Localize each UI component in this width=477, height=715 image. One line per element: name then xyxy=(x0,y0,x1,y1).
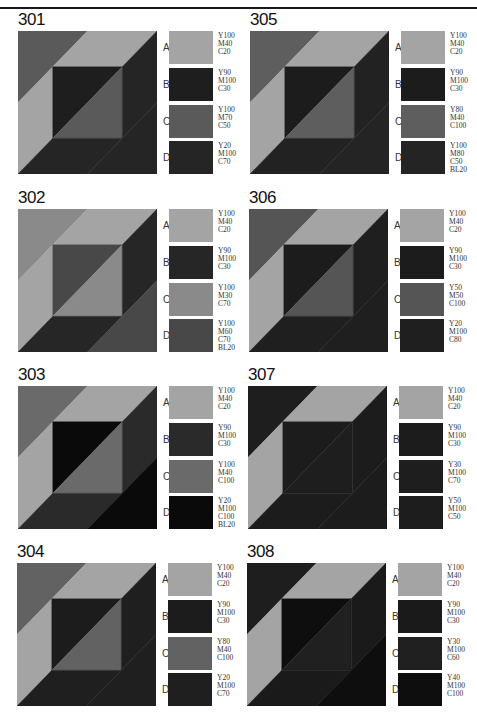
color-square-illustration xyxy=(247,563,386,706)
panel-number: 305 xyxy=(250,11,277,28)
color-swatch-d xyxy=(400,319,444,352)
cmyk-code: Y100 M40 C20 xyxy=(218,210,235,234)
cmyk-code: Y100 M70 C50 xyxy=(218,106,235,130)
panel-number: 301 xyxy=(18,11,45,28)
cmyk-code: Y100 M40 C100 xyxy=(218,461,235,485)
panel-304: 304AY100 M40 C20BY90 M100 C30CY80 M40 C1… xyxy=(17,543,249,715)
cmyk-code: Y80 M40 C100 xyxy=(217,638,233,662)
top-rule xyxy=(0,7,477,9)
cmyk-code: Y30 M100 C60 xyxy=(447,638,465,662)
color-square-illustration xyxy=(249,209,388,352)
color-swatch-d xyxy=(399,496,443,529)
cmyk-code: Y100 M40 C20 xyxy=(218,32,235,56)
cmyk-code: Y20 M100 C70 xyxy=(217,674,235,698)
color-swatch-a xyxy=(169,31,213,64)
panel-306: 306AY100 M40 C20BY90 M100 C30CY50 M50 C1… xyxy=(249,189,477,367)
color-swatch-d xyxy=(168,673,212,706)
color-swatch-b xyxy=(168,600,212,633)
color-square-illustration xyxy=(18,209,157,352)
panel-302: 302AY100 M40 C20BY90 M100 C30CY100 M30 C… xyxy=(18,189,250,367)
color-swatch-d xyxy=(401,141,445,174)
panel-303: 303AY100 M40 C20BY90 M100 C30CY100 M40 C… xyxy=(18,366,250,544)
color-swatch-a xyxy=(400,209,444,242)
color-swatch-c xyxy=(401,105,445,138)
color-swatch-d xyxy=(169,496,213,529)
color-swatch-b xyxy=(399,423,443,456)
color-swatch-b xyxy=(401,68,445,101)
color-swatch-b xyxy=(169,423,213,456)
color-swatch-d xyxy=(398,673,442,706)
color-swatch-d xyxy=(169,319,213,352)
color-swatch-c xyxy=(400,283,444,316)
panel-307: 307AY100 M40 C20BY90 M100 C30CY30 M100 C… xyxy=(248,366,477,544)
color-square-illustration xyxy=(17,563,156,706)
color-swatch-b xyxy=(169,68,213,101)
color-square-illustration xyxy=(18,31,157,174)
cmyk-code: Y50 M50 C100 xyxy=(449,284,465,308)
color-square-illustration xyxy=(248,386,387,529)
cmyk-code: Y100 M40 C20 xyxy=(447,564,464,588)
color-swatch-c xyxy=(169,105,213,138)
cmyk-code: Y90 M100 C30 xyxy=(217,601,235,625)
cmyk-code: Y100 M80 C50 BL20 xyxy=(450,142,467,174)
color-swatch-d xyxy=(169,141,213,174)
color-swatch-c xyxy=(169,283,213,316)
cmyk-code: Y90 M100 C30 xyxy=(448,424,466,448)
color-swatch-c xyxy=(168,637,212,670)
cmyk-code: Y50 M100 C50 xyxy=(448,497,466,521)
color-swatch-a xyxy=(169,386,213,419)
cmyk-code: Y90 M100 C30 xyxy=(449,247,467,271)
cmyk-code: Y100 M40 C20 xyxy=(218,387,235,411)
cmyk-code: Y30 M100 C70 xyxy=(448,461,466,485)
color-square-illustration xyxy=(250,31,389,174)
color-swatch-a xyxy=(169,209,213,242)
cmyk-code: Y90 M100 C30 xyxy=(218,69,236,93)
cmyk-code: Y90 M100 C30 xyxy=(447,601,465,625)
panel-number: 303 xyxy=(18,366,45,383)
panel-number: 308 xyxy=(247,543,274,560)
panel-301: 301AY100 M40 C20BY90 M100 C30CY100 M70 C… xyxy=(18,11,250,189)
color-swatch-a xyxy=(399,386,443,419)
color-swatch-b xyxy=(169,246,213,279)
cmyk-code: Y100 M40 C20 xyxy=(449,210,466,234)
color-swatch-a xyxy=(401,31,445,64)
cmyk-code: Y20 M100 C100 BL20 xyxy=(218,497,236,529)
cmyk-code: Y100 M40 C20 xyxy=(450,32,467,56)
cmyk-code: Y20 M100 C70 xyxy=(218,142,236,166)
color-swatch-a xyxy=(398,563,442,596)
cmyk-code: Y100 M40 C20 xyxy=(448,387,465,411)
color-square-illustration xyxy=(18,386,157,529)
panel-number: 304 xyxy=(17,543,44,560)
color-swatch-c xyxy=(399,460,443,493)
color-swatch-c xyxy=(169,460,213,493)
color-swatch-a xyxy=(168,563,212,596)
cmyk-code: Y100 M60 C70 BL20 xyxy=(218,320,235,352)
cmyk-code: Y80 M40 C100 xyxy=(450,106,466,130)
cmyk-code: Y40 M100 C100 xyxy=(447,674,465,698)
color-swatch-b xyxy=(400,246,444,279)
panel-308: 308AY100 M40 C20BY90 M100 C30CY30 M100 C… xyxy=(247,543,477,715)
panel-number: 306 xyxy=(249,189,276,206)
panel-number: 302 xyxy=(18,189,45,206)
cmyk-code: Y20 M100 C80 xyxy=(449,320,467,344)
color-swatch-b xyxy=(398,600,442,633)
panel-305: 305AY100 M40 C20BY90 M100 C30CY80 M40 C1… xyxy=(250,11,477,189)
cmyk-code: Y90 M100 C30 xyxy=(218,424,236,448)
cmyk-code: Y90 M100 C30 xyxy=(450,69,468,93)
cmyk-code: Y100 M30 C70 xyxy=(218,284,235,308)
cmyk-code: Y90 M100 C30 xyxy=(218,247,236,271)
color-swatch-c xyxy=(398,637,442,670)
cmyk-code: Y100 M40 C20 xyxy=(217,564,234,588)
panel-number: 307 xyxy=(248,366,275,383)
